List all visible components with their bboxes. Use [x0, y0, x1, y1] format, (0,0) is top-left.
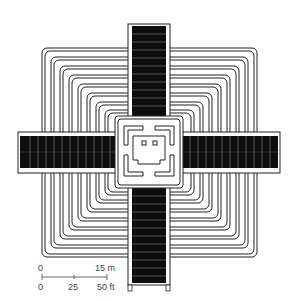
scale-imperial-mid: 25: [68, 283, 78, 292]
pyramid-plan: [0, 0, 293, 301]
scale-imperial-end: 50 ft: [97, 283, 115, 292]
scale-imperial-start: 0: [38, 283, 43, 292]
central-shrine: [115, 116, 183, 188]
scale-bar: [42, 274, 107, 280]
scale-metric-start: 0: [38, 264, 43, 273]
scale-metric-end: 15 m: [95, 264, 115, 273]
